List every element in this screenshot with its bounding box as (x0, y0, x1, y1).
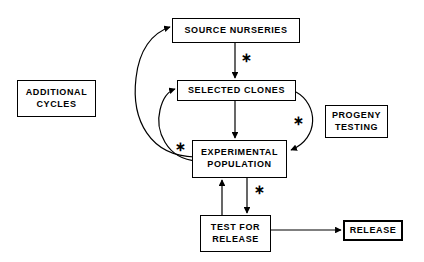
node-source-nurseries: SOURCE NURSERIES (172, 18, 300, 43)
node-selected-clones: SELECTED CLONES (177, 80, 296, 101)
node-test-for-release: TEST FOR RELEASE (200, 215, 271, 252)
asterisk-clones-to-population: ∗ (293, 114, 304, 127)
node-experimental-population: EXPERIMENTAL POPULATION (192, 140, 287, 178)
asterisk-population-feedback: ∗ (175, 140, 186, 153)
asterisk-population-to-test: ∗ (254, 183, 265, 196)
node-additional-cycles: ADDITIONAL CYCLES (17, 80, 96, 117)
node-progeny-testing: PROGENY TESTING (325, 105, 388, 138)
flowchart-diagram: SOURCE NURSERIES SELECTED CLONES EXPERIM… (0, 0, 424, 262)
node-release: RELEASE (343, 220, 403, 241)
asterisk-source-to-clones: ∗ (241, 51, 252, 64)
